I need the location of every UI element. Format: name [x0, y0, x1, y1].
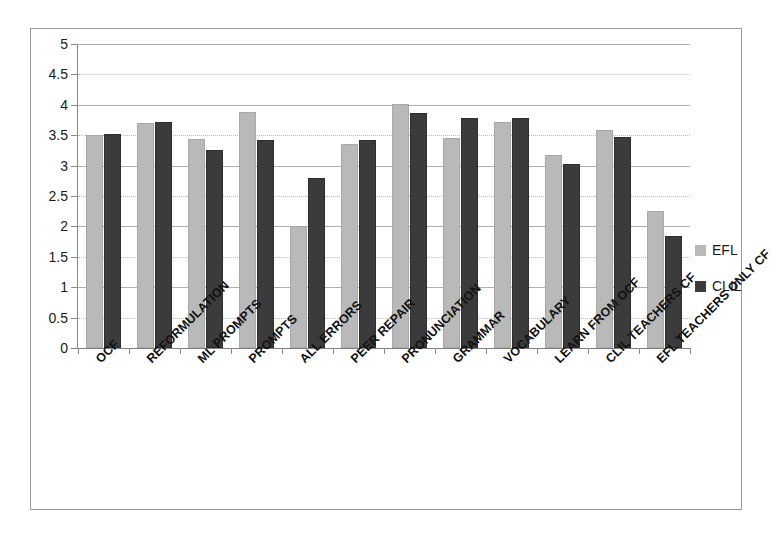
legend-label: EFL [712, 243, 738, 257]
y-axis-tick-label: 4.5 [24, 67, 68, 81]
bar-efl-5 [341, 144, 358, 348]
gridline [78, 74, 690, 75]
x-axis-tick [486, 348, 487, 354]
legend-swatch-icon [695, 245, 706, 256]
bar-clil-10 [614, 137, 631, 348]
x-axis-tick [78, 348, 79, 354]
bar-efl-6 [392, 104, 409, 348]
y-axis-tick-label: 3 [24, 159, 68, 173]
x-axis-tick [690, 348, 691, 354]
bar-clil-0 [104, 134, 121, 348]
x-axis-tick [537, 348, 538, 354]
x-axis-tick [333, 348, 334, 354]
bar-efl-8 [494, 122, 511, 348]
bar-efl-7 [443, 138, 460, 348]
y-axis-tick-label: 0 [24, 341, 68, 355]
bar-efl-2 [188, 139, 205, 348]
plot-area [78, 44, 690, 348]
y-axis-labels: 00.511.522.533.544.55 [20, 0, 68, 400]
gridline [78, 105, 690, 106]
x-axis-tick [588, 348, 589, 354]
x-axis-tick [282, 348, 283, 354]
x-axis-tick [435, 348, 436, 354]
y-axis-tick-label: 2 [24, 219, 68, 233]
bar-efl-0 [86, 135, 103, 348]
y-axis-tick-label: 3.5 [24, 128, 68, 142]
legend-item-clil[interactable]: CLIL [695, 279, 755, 293]
y-axis-tick-label: 5 [24, 37, 68, 51]
y-axis-tick-label: 2.5 [24, 189, 68, 203]
bar-efl-3 [239, 112, 256, 348]
legend-item-efl[interactable]: EFL [695, 243, 755, 257]
chart-legend: EFLCLIL [695, 243, 755, 315]
x-axis-tick [231, 348, 232, 354]
legend-label: CLIL [712, 279, 742, 293]
gridline [78, 44, 690, 45]
bar-clil-8 [512, 118, 529, 348]
bar-efl-11 [647, 211, 664, 348]
bar-clil-1 [155, 122, 172, 348]
y-axis-tick-label: 1.5 [24, 250, 68, 264]
y-axis-tick-label: 0.5 [24, 311, 68, 325]
bar-efl-9 [545, 155, 562, 348]
bar-clil-7 [461, 118, 478, 348]
bar-clil-11 [665, 236, 682, 348]
y-axis-tick-label: 4 [24, 98, 68, 112]
bar-clil-6 [410, 113, 427, 348]
bar-efl-4 [290, 226, 307, 348]
bar-clil-5 [359, 140, 376, 348]
x-axis-tick [129, 348, 130, 354]
y-axis-tick-label: 1 [24, 280, 68, 294]
legend-swatch-icon [695, 281, 706, 292]
bar-clil-2 [206, 150, 223, 348]
x-axis-tick [639, 348, 640, 354]
x-axis-tick [180, 348, 181, 354]
bar-clil-3 [257, 140, 274, 348]
x-axis-tick [384, 348, 385, 354]
bar-efl-10 [596, 130, 613, 348]
bar-efl-1 [137, 123, 154, 348]
bar-clil-9 [563, 164, 580, 348]
bar-clil-4 [308, 178, 325, 348]
